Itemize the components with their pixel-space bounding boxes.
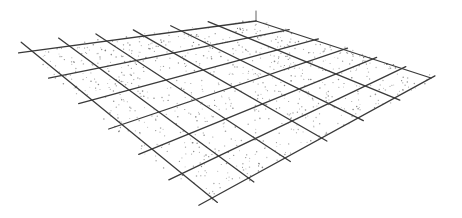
perspective-grid <box>0 0 462 218</box>
diagram-canvas <box>0 0 462 218</box>
grid-line-v3 <box>133 30 326 141</box>
grid-line-u0 <box>19 21 256 53</box>
grid-line-u6 <box>199 76 435 205</box>
grid-lines <box>19 21 435 205</box>
grid-line-u1 <box>49 30 290 79</box>
grid-line-v6 <box>21 42 217 202</box>
